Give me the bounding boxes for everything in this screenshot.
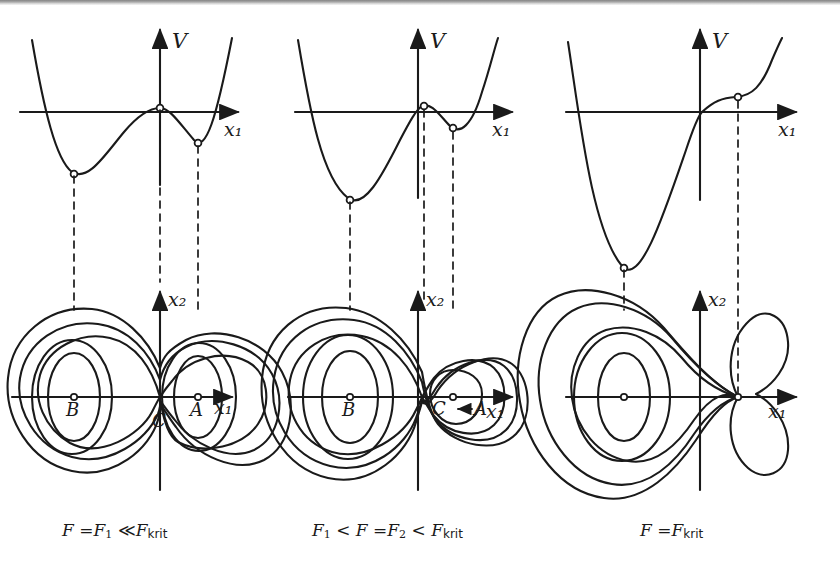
panel-1-potential-curve — [32, 38, 232, 174]
panel-1-label-a: A — [188, 399, 203, 420]
panel-3-potential-curve — [568, 38, 782, 270]
panel-2-potential-curve — [298, 38, 498, 200]
panel-3-caption: F =Fkrit — [640, 520, 703, 541]
panel-1-label-b: B — [65, 399, 79, 420]
panel-1-contour — [8, 292, 291, 490]
panel-1-caption-fk-index: krit — [147, 527, 167, 541]
panel-3-cusp-marker — [735, 394, 741, 400]
panel-1-connectors — [74, 110, 198, 310]
panel-1-potential — [20, 30, 238, 185]
panel-3-contour — [518, 290, 796, 498]
panel-2-caption-rel1: < — [336, 520, 350, 540]
panel-2-potential-x1-label: x₁ — [492, 118, 510, 140]
panel-3-potential-x1-label: x₁ — [778, 118, 796, 140]
panel-3-separatrix-cusp — [571, 328, 738, 462]
panel-2-label-b: B — [341, 399, 355, 420]
panel-2-connectors — [350, 110, 453, 310]
panel-2-caption-fk-index: krit — [443, 527, 463, 541]
panel-2-caption-rel2: < — [412, 520, 426, 540]
panel-2-potential — [295, 30, 512, 203]
panel-2-caption-f2: F — [387, 520, 399, 540]
panel-3-center-b-marker — [621, 394, 627, 400]
panel-1-contour-x1-label: x₁ — [214, 396, 232, 418]
panel-1-caption-f1: F — [93, 520, 105, 540]
panel-1-v-axis-label: V — [172, 29, 189, 53]
panel-1-x2-axis-label: x₂ — [168, 288, 186, 310]
panel-1-caption-fk: F — [136, 520, 148, 540]
panel-1-caption-eq: = — [79, 520, 93, 540]
panel-2-caption-f1-index: 1 — [324, 528, 331, 541]
panel-2-v-axis-label: V — [430, 29, 447, 53]
panel-2-caption-f: F — [356, 520, 368, 540]
panel-2-caption-f2-index: 2 — [399, 528, 406, 541]
panel-2-minimum-a-marker — [450, 125, 457, 132]
panel-2-caption: F1 < F =F2 < Fkrit — [312, 520, 463, 541]
panel-3-level-6-envelope — [518, 290, 738, 498]
panel-2-label-a: A — [472, 398, 487, 419]
panel-2-caption-f1: F — [312, 520, 324, 540]
panel-3-caption-fk-index: krit — [683, 527, 703, 541]
panel-3-potential — [566, 30, 796, 271]
panel-3-contour-x1-label: x₁ — [768, 400, 786, 422]
panel-3-inflection-marker — [735, 94, 742, 101]
bifurcation-figure: V V V x₁ x₁ x₁ x₂ x₂ x₂ x₁ x₁ x₁ B C A B… — [0, 0, 840, 573]
panel-1-caption: F =F1 ≪Fkrit — [62, 520, 167, 541]
panel-1-caption-f1-index: 1 — [105, 528, 112, 541]
panel-1-label-c: C — [152, 410, 166, 431]
panel-2-label-c: C — [432, 398, 446, 419]
panel-2-caption-fk: F — [431, 520, 443, 540]
panel-3-caption-f: F — [640, 520, 652, 540]
panel-2-maximum-c-marker — [421, 103, 428, 110]
panel-2-x2-axis-label: x₂ — [426, 288, 444, 310]
panel-1-potential-x1-label: x₁ — [224, 118, 242, 140]
panel-1-caption-f: F — [62, 520, 74, 540]
panel-2-contour-x1-label: x₁ — [486, 400, 504, 422]
panel-3-caption-fk: F — [671, 520, 683, 540]
panel-3-x2-axis-label: x₂ — [708, 288, 726, 310]
panel-1-caption-rel: ≪ — [118, 520, 136, 540]
panel-2-contour — [262, 292, 528, 490]
panel-3-connectors — [624, 101, 738, 395]
panel-3-v-axis-label: V — [712, 29, 729, 53]
panel-3-caption-eq: = — [657, 520, 671, 540]
panel-2-caption-eq: = — [373, 520, 387, 540]
panel-2-center-a-marker — [450, 394, 456, 400]
